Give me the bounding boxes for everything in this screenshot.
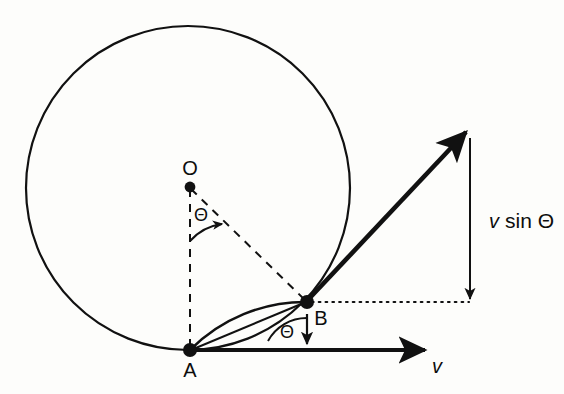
label-vertical-component-v: v	[489, 210, 500, 232]
label-point-a: A	[183, 359, 197, 381]
point-marker-a	[183, 343, 197, 357]
label-theta-center: Θ	[194, 205, 208, 225]
label-theta-rim: Θ	[280, 322, 294, 342]
label-vertical-component: vsin Θ	[489, 209, 554, 232]
label-vertical-component-rest: sin Θ	[505, 209, 554, 232]
point-marker-b	[300, 295, 314, 309]
point-marker-o	[185, 182, 196, 193]
label-velocity-axis: v	[432, 355, 443, 377]
label-point-o: O	[182, 157, 198, 179]
diagram-canvas: O A B Θ Θ v vsin Θ	[0, 0, 564, 394]
geometry-diagram: O A B Θ Θ v vsin Θ	[0, 0, 564, 394]
label-point-b: B	[314, 307, 327, 329]
